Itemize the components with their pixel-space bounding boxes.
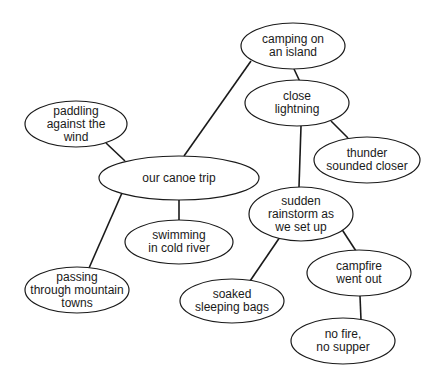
- node-label-line: paddling: [47, 105, 106, 118]
- node-label-line: towns: [30, 297, 123, 310]
- node-label-line: no supper: [316, 341, 369, 354]
- node-label-line: we set up: [268, 221, 334, 234]
- node-no-fire-no-supper: no fire, no supper: [291, 318, 395, 364]
- node-swimming-in-cold-river: swimming in cold river: [125, 220, 233, 264]
- connector-line: [299, 126, 301, 187]
- node-passing-through-mountain-towns: passing through mountain towns: [25, 267, 129, 313]
- node-label-line: sudden: [268, 195, 334, 208]
- node-camping-on-an-island: camping on an island: [241, 23, 345, 69]
- node-label-line: against the: [47, 118, 106, 131]
- connector-line: [250, 237, 280, 281]
- node-label-line: passing: [30, 271, 123, 284]
- connector-line: [89, 193, 122, 268]
- node-label-line: an island: [262, 46, 324, 59]
- node-sudden-rainstorm: sudden rainstorm as we set up: [249, 187, 353, 241]
- node-label-line: through mountain: [30, 284, 123, 297]
- node-our-canoe-trip: our canoe trip: [99, 156, 259, 200]
- node-label-line: rainstorm as: [268, 208, 334, 221]
- node-thunder-sounded-closer: thunder sounded closer: [314, 137, 420, 183]
- node-label-line: wind: [47, 131, 106, 144]
- node-close-lightning: close lightning: [245, 80, 349, 126]
- connector-line: [360, 296, 361, 320]
- node-label-line: sleeping bags: [195, 301, 269, 314]
- node-soaked-sleeping-bags: soaked sleeping bags: [180, 279, 284, 323]
- node-label-line: lightning: [275, 103, 320, 116]
- connector-line: [184, 61, 251, 156]
- node-label-line: in cold river: [148, 242, 209, 255]
- node-label-line: sounded closer: [326, 160, 407, 173]
- node-paddling-against-the-wind: paddling against the wind: [25, 101, 127, 147]
- node-label-line: went out: [336, 273, 382, 286]
- node-campfire-went-out: campfire went out: [307, 250, 411, 296]
- node-label-line: our canoe trip: [142, 172, 215, 185]
